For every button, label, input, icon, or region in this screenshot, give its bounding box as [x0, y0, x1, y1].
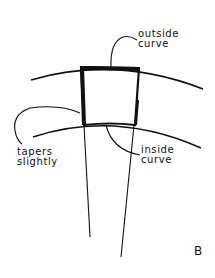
- radial-line-right: [121, 125, 134, 257]
- wedge-diagram: [0, 0, 215, 278]
- radial-line-left: [84, 125, 90, 237]
- outer-arc: [31, 69, 203, 89]
- leader-inside-curve: [106, 125, 140, 155]
- label-outside-curve: outside curve: [138, 29, 179, 49]
- diagram-canvas: outside curve inside curve tapers slight…: [0, 0, 215, 278]
- leader-tapers-slightly: [15, 107, 80, 144]
- label-tapers-slightly: tapers slightly: [17, 147, 58, 167]
- label-inside-curve: inside curve: [141, 145, 174, 165]
- figure-letter: B: [194, 246, 203, 256]
- leader-outside-curve: [111, 36, 137, 67]
- left-edge-thick: [80, 67, 86, 125]
- wedge-block: [81, 67, 139, 125]
